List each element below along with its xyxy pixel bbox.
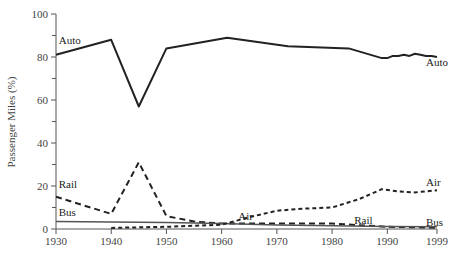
x-tick-label: 1990 [376,235,399,247]
series-label-bus: Bus [59,206,76,218]
series-labels: AutoAutoRailBusAirRailAirBus [59,34,449,228]
x-tick-label: 1960 [211,235,234,247]
series-label-rail: Rail [354,214,372,226]
x-tick-label: 1999 [426,235,449,247]
x-tick-label: 1950 [155,235,178,247]
x-tick-label: 1940 [100,235,123,247]
series-label-bus: Bus [426,216,443,228]
x-tick-label: 1930 [45,235,68,247]
y-tick-label: 40 [37,137,49,149]
y-tick-label: 80 [37,51,49,63]
y-tick-label: 20 [37,180,49,192]
line-chart: 0204060801001930194019501960197019801990… [0,0,455,258]
series-auto-line [56,38,437,107]
series-group [56,38,437,228]
y-tick-label: 60 [37,94,49,106]
x-tick-label: 1970 [266,235,289,247]
series-label-rail: Rail [59,178,77,190]
y-axis-title: Passenger Miles (%) [5,76,18,167]
series-label-air: Air [426,176,441,188]
y-tick-label: 100 [32,8,49,20]
series-label-auto: Auto [59,34,81,46]
x-tick-label: 1980 [321,235,344,247]
y-tick-label: 0 [43,223,49,235]
series-label-auto: Auto [426,56,449,68]
series-label-air: Air [238,210,253,222]
